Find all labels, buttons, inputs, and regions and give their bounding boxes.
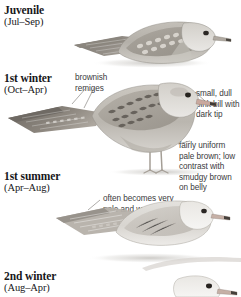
annotation-leader-line-worn [88, 200, 100, 210]
stage-months: (Jul–Sep) [4, 16, 44, 27]
annotation-often-pale-and-worn: often becomes very pale and worn [103, 194, 187, 215]
stage-name: 2nd winter [4, 270, 56, 282]
stage-months: (Apr–Aug) [4, 182, 60, 193]
stage-months: (Oct–Apr) [4, 84, 52, 95]
stage-label-first-winter: 1st winter (Oct–Apr) [4, 72, 52, 96]
stage-name: Juvenile [4, 4, 44, 16]
stage-months: (Aug–Apr) [4, 282, 56, 293]
stage-label-juvenile: Juvenile (Jul–Sep) [4, 4, 44, 28]
annotation-leader-lines [72, 88, 205, 144]
stage-label-first-summer: 1st summer (Apr–Aug) [4, 170, 60, 194]
annotation-brownish-remiges: brownish remiges [75, 73, 129, 94]
annotation-small-dull-pink-bill: small, dull pink bill with dark tip [196, 89, 240, 121]
stage-name: 1st summer [4, 170, 60, 182]
stage-name: 1st winter [4, 72, 52, 84]
stage-label-second-winter: 2nd winter (Aug–Apr) [4, 270, 56, 294]
bird-plumage-plate: Juvenile (Jul–Sep) 1st winter (Oct–Apr) … [0, 0, 241, 297]
second-winter-bird [142, 257, 241, 297]
juvenile-bird [74, 22, 231, 68]
annotation-fairly-uniform-pale-brown: fairly uniform pale brown; low contrast … [179, 141, 241, 194]
